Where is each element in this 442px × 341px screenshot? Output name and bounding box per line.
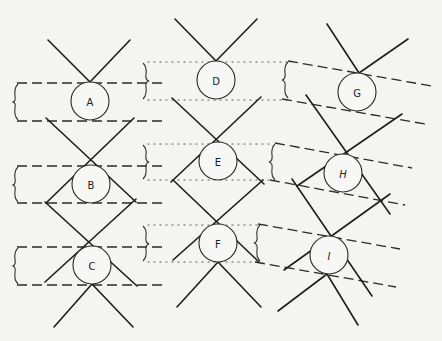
node-label: B [88,180,95,191]
node-d: D [197,61,235,99]
node-label: G [353,88,361,99]
node-f: F [199,224,237,262]
node-a: A [71,82,109,120]
node-label: H [339,169,347,180]
node-h: H [324,154,362,192]
brace-a [13,84,18,120]
lattice-diagram: A B C D E F G H I [0,0,442,341]
node-e: E [199,142,237,180]
node-label: F [215,239,221,250]
node-label: C [89,261,96,272]
brace-c [13,248,18,284]
node-b: B [72,165,110,203]
brace-d-left [143,63,149,99]
node-label: E [215,157,221,168]
node-c: C [73,246,111,284]
brace-h [269,144,275,180]
node-label: A [87,97,94,108]
brace-e-left [143,145,149,179]
brace-b [13,167,18,202]
node-label: D [212,76,220,87]
node-g: G [338,73,376,111]
brace-f-left [143,226,149,261]
node-i: I [310,236,348,274]
node-label: I [328,251,331,262]
brace-i [254,225,260,261]
brace-g [282,62,288,98]
